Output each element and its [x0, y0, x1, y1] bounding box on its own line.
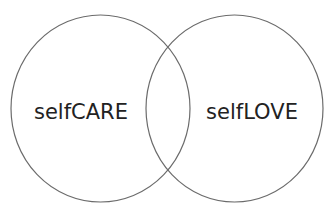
label-selfcare: selfCARE — [34, 100, 128, 124]
label-selflove: selfLOVE — [206, 100, 298, 124]
venn-diagram: selfCARE selfLOVE — [0, 0, 336, 213]
